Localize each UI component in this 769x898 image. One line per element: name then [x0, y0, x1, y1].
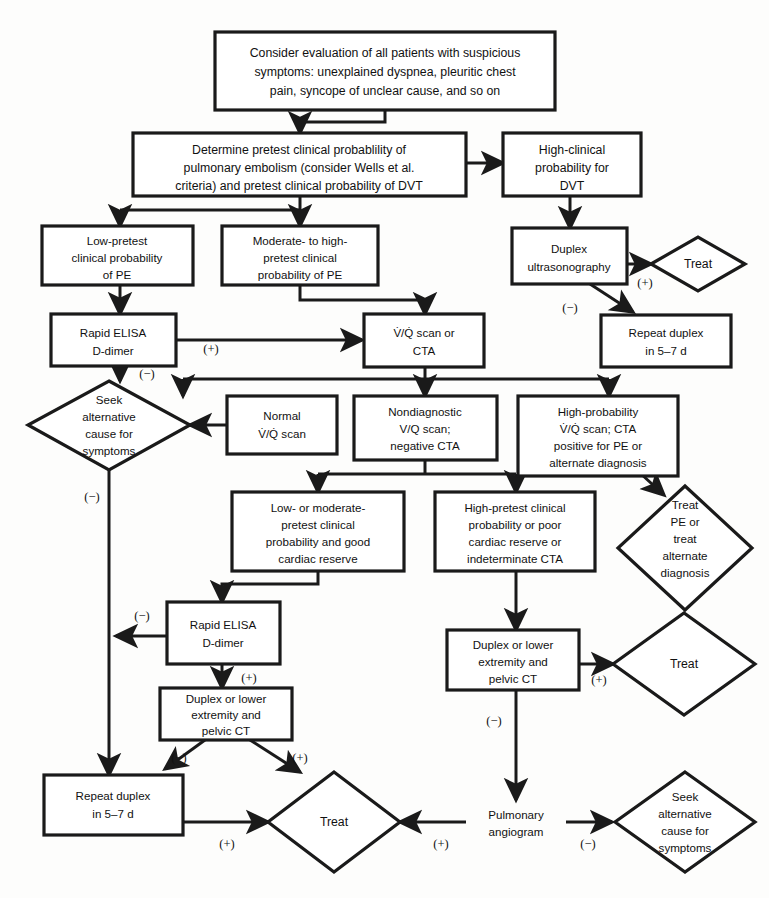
edge-n16-n18	[222, 571, 318, 602]
node-label: cardiac reserve or	[469, 535, 562, 548]
node-label: V/Q scan;	[400, 422, 451, 435]
node-label: pelvic CT	[489, 672, 537, 685]
edge-label-ct2-negative: (−)	[486, 714, 501, 728]
node-normal-vq-scan[interactable]: Normal V̇/Q̇ scan	[227, 396, 337, 454]
node-label: pelvic CT	[202, 724, 250, 737]
node-label: Low- or moderate-	[271, 501, 366, 514]
node-label: Low-pretest	[87, 234, 148, 247]
node-treat-bottom[interactable]: Treat	[268, 772, 400, 872]
node-repeat-duplex-2[interactable]: Repeat duplex in 5–7 d	[44, 775, 183, 835]
edge-label-elisa2-negative: (−)	[134, 609, 149, 623]
edge-label-elisa2-positive: (+)	[241, 671, 256, 685]
node-label: treat	[673, 532, 697, 545]
node-label: Seek	[96, 393, 123, 406]
node-treat-dvt-2[interactable]: Treat	[613, 613, 755, 715]
node-nondiagnostic-vq-negative-cta[interactable]: Nondiagnostic V/Q scan; negative CTA	[354, 396, 497, 460]
node-label: Pulmonary	[488, 808, 544, 821]
node-consider-evaluation[interactable]: Consider evaluation of all patients with…	[215, 32, 555, 110]
node-label: clinical probability	[72, 251, 163, 264]
node-label: symptoms	[83, 444, 136, 457]
node-label: Moderate- to high-	[253, 234, 348, 247]
node-label: cardiac reserve	[278, 552, 357, 565]
node-label: PE or	[671, 515, 700, 528]
node-label: Rapid ELISA	[190, 618, 257, 631]
node-determine-pretest-probability[interactable]: Determine pretest clinical probablility …	[133, 133, 466, 196]
edge-n6-repeat	[590, 284, 633, 312]
edge-label-elisa1-negative: (−)	[139, 367, 154, 381]
edge-label-angiogram-positive: (+)	[433, 837, 448, 851]
node-label: V̇/Q̇ scan or	[393, 326, 454, 339]
node-label: ultrasonography	[527, 260, 610, 273]
node-duplex-lower-extremity-pelvic-ct-1[interactable]: Duplex or lower extremity and pelvic CT	[160, 688, 292, 740]
node-high-probability-vq-cta-positive[interactable]: High-probability V̇/Q̇ scan; CTA positiv…	[518, 396, 678, 476]
node-label: High-pretest clinical	[464, 501, 565, 514]
node-label: alternate	[662, 549, 707, 562]
node-moderate-high-pretest-probability-pe[interactable]: Moderate- to high- pretest clinical prob…	[222, 226, 378, 285]
node-label: pain, syncope of unclear cause, and so o…	[270, 84, 501, 98]
node-label: of PE	[103, 268, 132, 281]
node-label: DVT	[560, 179, 585, 193]
node-low-moderate-pretest-good-reserve[interactable]: Low- or moderate- pretest clinical proba…	[232, 492, 404, 571]
flowchart-canvas: Consider evaluation of all patients with…	[0, 0, 769, 898]
node-treat-pe-or-alternate[interactable]: Treat PE or treat alternate diagnosis	[618, 486, 752, 610]
node-vq-scan-or-cta[interactable]: V̇/Q̇ scan or CTA	[364, 314, 484, 367]
node-label: Treat	[670, 657, 699, 671]
node-label: negative CTA	[390, 439, 460, 452]
node-label: Duplex or lower	[473, 638, 554, 651]
node-seek-alternative-cause-1[interactable]: Seek alternative cause for symptoms	[28, 381, 190, 470]
node-label: angiogram	[489, 825, 544, 838]
node-label: probability or poor	[469, 518, 562, 531]
edge-label-angiogram-negative: (−)	[580, 837, 595, 851]
node-treat-dvt[interactable]: Treat	[651, 237, 745, 291]
node-low-pretest-probability-pe[interactable]: Low-pretest clinical probability of PE	[42, 226, 193, 285]
node-repeat-duplex-1[interactable]: Repeat duplex in 5–7 d	[601, 315, 731, 367]
node-label: Rapid ELISA	[80, 326, 147, 339]
node-label: D-dimer	[202, 636, 243, 649]
node-duplex-ultrasonography[interactable]: Duplex ultrasonography	[512, 228, 627, 284]
edge-label-duplex-positive: (+)	[637, 276, 652, 290]
node-label: Duplex or lower	[186, 692, 267, 705]
edge-label-repeat-positive: (+)	[219, 837, 234, 851]
node-label: indeterminate CTA	[467, 552, 563, 565]
edge-label-ct1-positive: (+)	[292, 751, 307, 765]
node-label: cause for	[661, 824, 709, 837]
node-label: D-dimer	[92, 344, 133, 357]
node-high-pretest-poor-reserve[interactable]: High-pretest clinical probability or poo…	[435, 492, 595, 571]
node-label: alternative	[658, 807, 712, 820]
edge-label-ct1-negative: (−)	[171, 751, 186, 765]
node-label: CTA	[413, 344, 436, 357]
node-label: Treat	[672, 498, 699, 511]
node-label: V̇/Q̇ scan	[258, 427, 306, 440]
node-label: Duplex	[551, 242, 587, 255]
node-label: pulmonary embolism (consider Wells et al…	[184, 161, 415, 175]
node-label: extremity and	[478, 655, 548, 668]
node-label: Treat	[320, 815, 349, 829]
node-label: extremity and	[191, 708, 261, 721]
node-rapid-elisa-d-dimer-1[interactable]: Rapid ELISA D-dimer	[51, 314, 176, 366]
node-pulmonary-angiogram[interactable]: Pulmonary angiogram	[488, 808, 544, 838]
edge-label-elisa1-positive: (+)	[203, 342, 218, 356]
node-label: pretest clinical	[281, 518, 354, 531]
node-label: symptoms	[659, 841, 712, 854]
node-label: Treat	[684, 257, 713, 271]
node-seek-alternative-cause-2[interactable]: Seek alternative cause for symptoms	[615, 772, 755, 872]
node-label: symptoms: unexplained dyspnea, pleuritic…	[254, 65, 516, 79]
edge-label-duplex-negative: (−)	[562, 301, 577, 315]
node-label: alternative	[82, 410, 136, 423]
node-label: alternate diagnosis	[549, 456, 647, 469]
edge-label-ct2-positive: (+)	[591, 673, 606, 687]
node-label: in 5–7 d	[92, 807, 133, 820]
node-label: Normal	[263, 409, 300, 422]
node-high-clinical-probability-dvt[interactable]: High-clinical probability for DVT	[503, 133, 641, 196]
node-label: Determine pretest clinical probablility …	[192, 143, 407, 157]
edge-n1-n2	[300, 110, 385, 133]
node-duplex-lower-extremity-pelvic-ct-2[interactable]: Duplex or lower extremity and pelvic CT	[447, 630, 579, 690]
node-label: Repeat duplex	[76, 789, 151, 802]
node-label: High-probability	[558, 405, 639, 418]
node-label: Repeat duplex	[629, 326, 704, 339]
node-rapid-elisa-d-dimer-2[interactable]: Rapid ELISA D-dimer	[167, 602, 280, 664]
node-label: Seek	[672, 790, 699, 803]
node-label: positive for PE or	[554, 439, 642, 452]
node-label: in 5–7 d	[645, 344, 686, 357]
edge-label-seek-negative: (−)	[84, 490, 99, 504]
